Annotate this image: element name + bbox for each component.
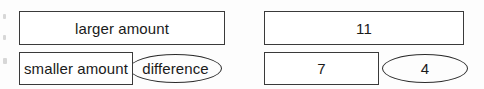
bar-part-smaller-amount: smaller amount <box>19 52 133 85</box>
bar-total-eleven-label: 11 <box>356 21 372 36</box>
ellipse-difference-label: difference <box>142 61 209 76</box>
bar-part-smaller-amount-label: smaller amount <box>24 61 128 76</box>
bar-model-diagram: larger amount smaller amount difference … <box>0 0 484 89</box>
ellipse-difference: difference <box>129 54 222 83</box>
scan-artifact <box>3 58 7 64</box>
scan-artifact <box>3 14 6 19</box>
bar-total-larger-amount: larger amount <box>19 11 225 45</box>
bar-total-eleven: 11 <box>264 11 464 45</box>
ellipse-four: 4 <box>382 54 468 83</box>
ellipse-four-label: 4 <box>421 61 429 76</box>
bar-part-seven: 7 <box>264 52 379 85</box>
bar-total-larger-amount-label: larger amount <box>75 21 169 36</box>
bar-part-seven-label: 7 <box>317 61 325 76</box>
scan-artifact <box>3 35 6 40</box>
